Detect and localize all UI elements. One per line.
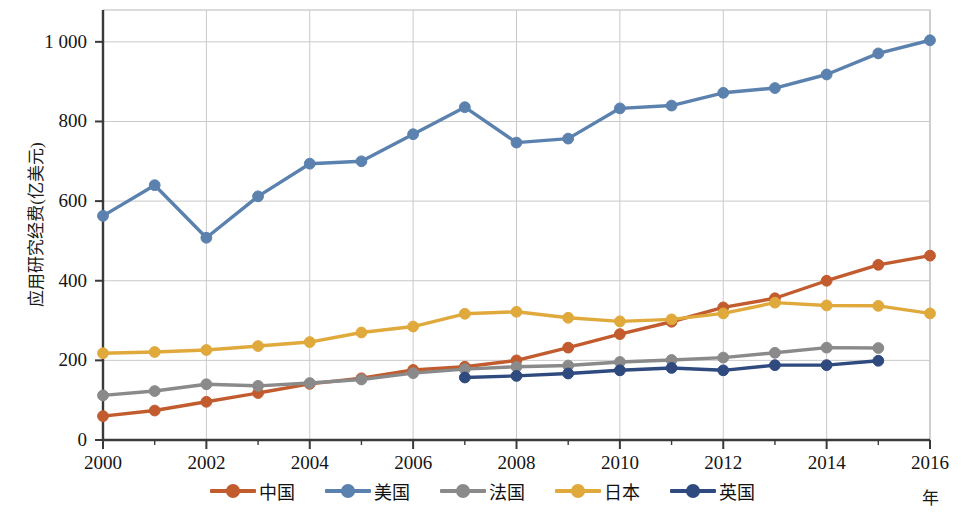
data-point xyxy=(614,316,625,327)
legend-item-france[interactable]: 法国 xyxy=(440,478,525,504)
data-point xyxy=(925,308,936,319)
data-point xyxy=(253,191,264,202)
data-point xyxy=(304,378,315,389)
data-point xyxy=(253,380,264,391)
data-point xyxy=(873,343,884,354)
data-point xyxy=(873,300,884,311)
data-point xyxy=(563,312,574,323)
data-point xyxy=(201,396,212,407)
legend-label: 美国 xyxy=(374,478,410,504)
data-point xyxy=(873,48,884,59)
data-point xyxy=(666,363,677,374)
data-point xyxy=(253,341,264,352)
legend-label: 中国 xyxy=(259,478,295,504)
data-point xyxy=(770,360,781,371)
data-point xyxy=(718,352,729,363)
data-point xyxy=(356,156,367,167)
data-point xyxy=(821,342,832,353)
data-point xyxy=(511,137,522,148)
chart-legend: 中国美国法国日本英国 xyxy=(0,478,964,504)
data-point xyxy=(149,386,160,397)
plot-area xyxy=(0,0,964,512)
data-point xyxy=(408,321,419,332)
data-point xyxy=(770,297,781,308)
legend-marker-icon xyxy=(670,484,716,498)
data-point xyxy=(356,327,367,338)
legend-item-uk[interactable]: 英国 xyxy=(670,478,755,504)
data-point xyxy=(98,411,109,422)
legend-item-japan[interactable]: 日本 xyxy=(555,478,640,504)
data-point xyxy=(614,365,625,376)
data-point xyxy=(356,374,367,385)
legend-label: 日本 xyxy=(604,478,640,504)
data-point xyxy=(98,348,109,359)
data-point xyxy=(614,103,625,114)
data-point xyxy=(666,314,677,325)
legend-marker-icon xyxy=(555,484,601,498)
legend-label: 法国 xyxy=(489,478,525,504)
data-point xyxy=(563,133,574,144)
line-chart: 应用研究经费(亿美元) 年 02004006008001 000 2000200… xyxy=(0,0,964,512)
data-point xyxy=(718,365,729,376)
data-point xyxy=(408,129,419,140)
data-point xyxy=(511,371,522,382)
data-point xyxy=(666,100,677,111)
data-point xyxy=(408,368,419,379)
data-point xyxy=(925,35,936,46)
data-point xyxy=(821,360,832,371)
legend-label: 英国 xyxy=(719,478,755,504)
data-point xyxy=(149,347,160,358)
data-point xyxy=(770,83,781,94)
data-point xyxy=(201,232,212,243)
data-point xyxy=(563,342,574,353)
data-point xyxy=(718,308,729,319)
legend-item-china[interactable]: 中国 xyxy=(210,478,295,504)
data-point xyxy=(770,347,781,358)
data-point xyxy=(459,372,470,383)
data-point xyxy=(98,210,109,221)
data-point xyxy=(873,259,884,270)
data-point xyxy=(873,355,884,366)
data-point xyxy=(511,306,522,317)
data-point xyxy=(149,405,160,416)
series-line xyxy=(103,348,878,396)
data-point xyxy=(201,379,212,390)
data-point xyxy=(98,390,109,401)
data-point xyxy=(718,87,729,98)
data-point xyxy=(821,300,832,311)
data-point xyxy=(614,329,625,340)
data-point xyxy=(925,250,936,261)
data-point xyxy=(304,158,315,169)
data-point xyxy=(304,337,315,348)
data-point xyxy=(821,69,832,80)
data-point xyxy=(821,275,832,286)
data-point xyxy=(149,180,160,191)
data-point xyxy=(459,102,470,113)
legend-marker-icon xyxy=(210,484,256,498)
data-point xyxy=(563,368,574,379)
legend-marker-icon xyxy=(440,484,486,498)
legend-item-usa[interactable]: 美国 xyxy=(325,478,410,504)
legend-marker-icon xyxy=(325,484,371,498)
data-point xyxy=(459,308,470,319)
data-point xyxy=(201,345,212,356)
